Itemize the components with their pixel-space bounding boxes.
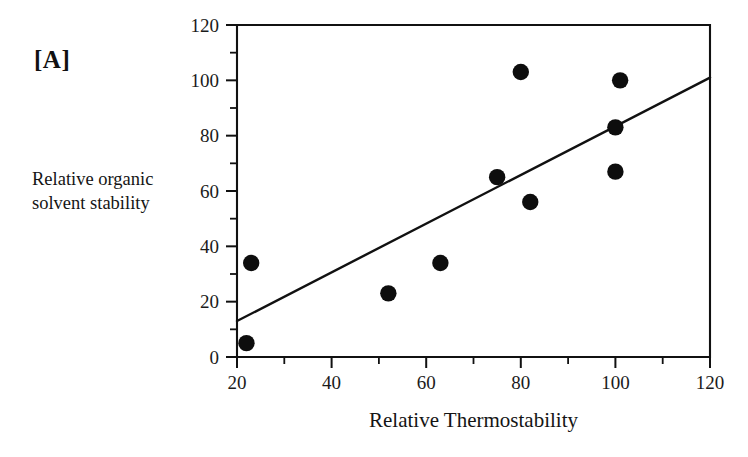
data-point <box>489 169 505 185</box>
x-tick-label: 120 <box>696 372 725 393</box>
scatter-plot: 020406080100120 20406080100120 <box>0 0 748 457</box>
data-point <box>243 255 259 271</box>
x-tick-label: 40 <box>322 372 341 393</box>
y-axis-ticks <box>226 25 237 357</box>
data-point <box>238 335 254 351</box>
y-tick-label: 0 <box>210 347 220 368</box>
data-points <box>238 64 628 352</box>
data-point <box>432 255 448 271</box>
y-tick-label: 100 <box>191 70 220 91</box>
y-tick-label: 40 <box>200 236 219 257</box>
figure-panel-a: [A] Relative organic solvent stability R… <box>0 0 748 457</box>
y-tick-label: 80 <box>200 125 219 146</box>
trend-line <box>237 78 710 321</box>
data-point <box>607 163 623 179</box>
data-point <box>522 194 538 210</box>
trend-line-segment <box>237 78 710 321</box>
axis-frame <box>237 25 710 357</box>
data-point <box>380 285 396 301</box>
x-axis-tick-labels: 20406080100120 <box>228 372 725 393</box>
y-axis-tick-labels: 020406080100120 <box>191 15 220 368</box>
x-tick-label: 20 <box>228 372 247 393</box>
data-point <box>612 72 628 88</box>
axis-frame-path <box>237 25 710 357</box>
data-point <box>513 64 529 80</box>
y-tick-label: 60 <box>200 181 219 202</box>
y-tick-label: 20 <box>200 291 219 312</box>
x-tick-label: 60 <box>417 372 436 393</box>
y-tick-label: 120 <box>191 15 220 36</box>
data-point <box>607 119 623 135</box>
x-axis-ticks <box>237 357 710 368</box>
x-tick-label: 80 <box>511 372 530 393</box>
x-tick-label: 100 <box>601 372 630 393</box>
